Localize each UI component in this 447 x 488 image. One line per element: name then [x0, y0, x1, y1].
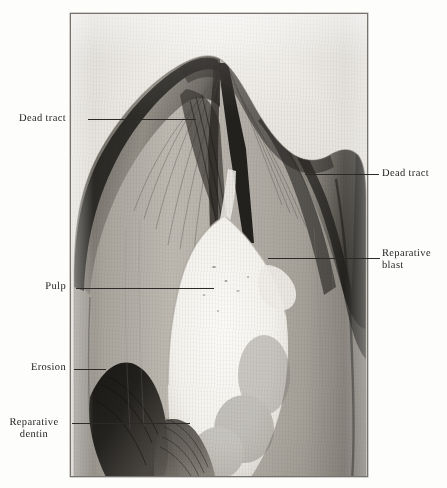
- annotation-layer: Dead tract Dead tract Reparative blast P…: [0, 0, 447, 488]
- annotation-label-pulp: Pulp: [8, 281, 66, 293]
- annotation-label-dead-tract-left: Dead tract: [8, 113, 66, 125]
- leader-line-dead-tract-right: [305, 174, 379, 175]
- annotation-label-reparative-dentin: Reparative dentin: [2, 417, 66, 440]
- leader-line-reparative-dentin: [72, 423, 190, 424]
- leader-line-reparative-blast: [268, 258, 380, 259]
- leader-line-pulp: [76, 288, 214, 289]
- leader-line-erosion: [74, 369, 106, 370]
- annotation-label-reparative-blast: Reparative blast: [382, 248, 444, 271]
- figure-plate-page: Dead tract Dead tract Reparative blast P…: [0, 0, 447, 488]
- annotation-label-erosion: Erosion: [8, 362, 66, 374]
- annotation-label-dead-tract-right: Dead tract: [382, 168, 444, 180]
- leader-line-dead-tract-left: [88, 119, 196, 120]
